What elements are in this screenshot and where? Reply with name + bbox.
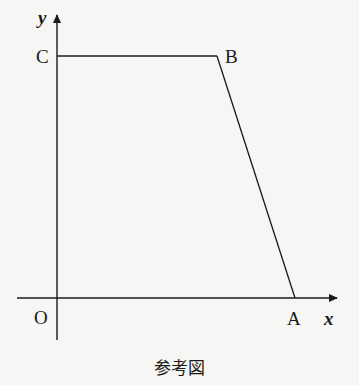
origin-label: O [34,307,48,328]
point-b-label: B [225,46,238,67]
figure-caption: 参考図 [154,358,205,378]
diagram-canvas: y C B O A x 参考図 [0,0,359,385]
segment-ba [217,56,295,298]
point-a-label: A [287,308,301,329]
y-axis-label: y [36,7,47,28]
point-c-label: C [36,46,49,67]
x-axis-label: x [323,308,334,329]
